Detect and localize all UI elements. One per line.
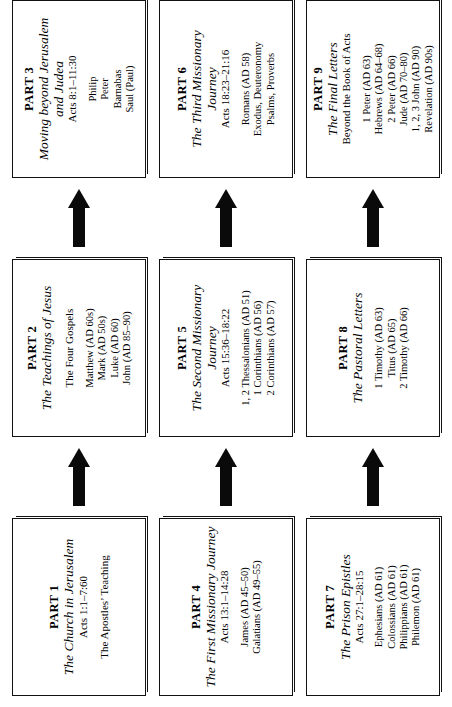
list-item: 1 Timothy (AD 63) xyxy=(373,307,385,388)
part-6-title: The Third Missionary Journey xyxy=(189,7,219,171)
part-1-subtitle: The Apostles’ Teaching xyxy=(98,555,111,658)
list-item: Jude (AD 70–80) xyxy=(398,44,410,135)
part-3-title: Moving beyond Jerusalem and Judea xyxy=(36,7,66,171)
part-4-box[interactable]: PART 4 The First Missionary Journey Acts… xyxy=(159,518,293,696)
part-9-box[interactable]: PART 9 The Final Letters Beyond the Book… xyxy=(306,0,440,178)
part-1-reference: Acts 1:1–7:60 xyxy=(77,576,90,638)
part-5-reference: Acts 15:36–18:22 xyxy=(219,309,232,388)
arrow-part-5-to-part-6 xyxy=(159,178,293,259)
part-9-title: The Final Letters xyxy=(325,42,340,136)
part-2-box[interactable]: PART 2 The Teachings of Jesus The Four G… xyxy=(12,259,146,437)
part-4-items: James (AD 45–50) Galatians (AD 49–55) xyxy=(239,560,264,653)
list-item: Romans (AD 58) xyxy=(240,42,252,137)
arrow-shaft xyxy=(367,208,379,248)
right-arrow-icon xyxy=(215,449,237,507)
list-item: Peter xyxy=(99,66,111,113)
arrow-part-8-to-part-9 xyxy=(306,178,440,259)
part-7-box[interactable]: PART 7 The Prison Epistles Acts 27:1–28:… xyxy=(306,518,440,696)
part-2-items: Matthew (AD 60s) Mark (AD 50s) Luke (AD … xyxy=(84,308,134,387)
part-8-items: 1 Timothy (AD 63) Titus (AD 65) 2 Timoth… xyxy=(373,307,410,388)
list-item: Colossians (AD 61) xyxy=(386,564,398,649)
right-arrow-icon xyxy=(362,449,384,507)
part-9-items: 1 Peter (AD 63) Hebrews (AD 64–68) 2 Pet… xyxy=(361,44,435,135)
right-arrow-icon xyxy=(215,190,237,248)
list-item: Revelation (AD 90s) xyxy=(423,44,435,135)
part-6-reference: Acts 18:23–21:16 xyxy=(219,50,232,129)
arrow-part-7-to-part-8 xyxy=(306,437,440,518)
list-item: 1 Peter (AD 63) xyxy=(361,44,373,135)
part-6-box[interactable]: PART 6 The Third Missionary Journey Acts… xyxy=(159,0,293,178)
arrow-head xyxy=(215,190,237,209)
list-item: Ephesians (AD 61) xyxy=(373,564,385,649)
part-5-label: PART 5 xyxy=(175,326,189,370)
part-1-title: The Church in Jerusalem xyxy=(61,539,76,675)
list-item: Hebrews (AD 64–68) xyxy=(373,44,385,135)
part-2-title: The Teachings of Jesus xyxy=(39,286,54,410)
part-9-label: PART 9 xyxy=(311,67,325,111)
part-8-title: The Pastoral Letters xyxy=(350,293,365,404)
list-item: Matthew (AD 60s) xyxy=(84,308,96,387)
list-item: Barnabas xyxy=(112,66,124,113)
part-2-subtitle: The Four Gospels xyxy=(63,309,76,388)
list-item: 2 Peter (AD 66) xyxy=(386,44,398,135)
arrow-head xyxy=(215,449,237,468)
part-7-items: Ephesians (AD 61) Colossians (AD 61) Phi… xyxy=(373,564,423,649)
part-7-title: The Prison Epistles xyxy=(338,554,353,660)
part-1-label: PART 1 xyxy=(47,585,61,629)
arrow-shaft xyxy=(73,208,85,248)
arrow-head xyxy=(68,190,90,209)
list-item: Philip xyxy=(87,66,99,113)
part-9-reference: Beyond the Book of Acts xyxy=(340,33,353,144)
arrow-head xyxy=(68,449,90,468)
list-item: Mark (AD 50s) xyxy=(96,308,108,387)
right-arrow-icon xyxy=(68,190,90,248)
part-4-title: The First Missionary Journey xyxy=(203,527,218,688)
part-4-label: PART 4 xyxy=(189,585,203,629)
part-4-reference: Acts 13:1–14:28 xyxy=(218,570,231,643)
list-item: 1, 2 Thessalonians (AD 51) xyxy=(240,290,252,406)
arrow-shaft xyxy=(220,467,232,507)
part-8-label: PART 8 xyxy=(336,326,350,370)
right-arrow-icon xyxy=(362,190,384,248)
list-item: 1 Corinthians (AD 56) xyxy=(252,290,264,406)
part-8-box[interactable]: PART 8 The Pastoral Letters 1 Timothy (A… xyxy=(306,259,440,437)
part-1-box[interactable]: PART 1 The Church in Jerusalem Acts 1:1–… xyxy=(12,518,146,696)
list-item: 2 Corinthians (AD 57) xyxy=(265,290,277,406)
arrow-part-2-to-part-3 xyxy=(12,178,146,259)
diagram-rotator: PART 1 The Church in Jerusalem Acts 1:1–… xyxy=(0,0,452,707)
arrow-part-4-to-part-5 xyxy=(159,437,293,518)
list-item: Philippians (AD 61) xyxy=(398,564,410,649)
list-item: 1, 2, 3 John (AD 90) xyxy=(410,44,422,135)
right-arrow-icon xyxy=(68,449,90,507)
flowchart: PART 1 The Church in Jerusalem Acts 1:1–… xyxy=(0,0,452,707)
arrow-head xyxy=(362,190,384,209)
part-5-title: The Second Missionary Journey xyxy=(189,266,219,430)
flowchart-row-1: PART 1 The Church in Jerusalem Acts 1:1–… xyxy=(8,0,150,707)
part-5-items: 1, 2 Thessalonians (AD 51) 1 Corinthians… xyxy=(240,290,277,406)
part-7-label: PART 7 xyxy=(323,585,337,629)
list-item: Exodus, Deuteronomy xyxy=(252,42,264,137)
list-item: James (AD 45–50) xyxy=(239,560,251,653)
part-6-items: Romans (AD 58) Exodus, Deuteronomy Psalm… xyxy=(240,42,277,137)
part-7-reference: Acts 27:1–28:15 xyxy=(353,570,366,643)
arrow-shaft xyxy=(220,208,232,248)
flowchart-row-2: PART 4 The First Missionary Journey Acts… xyxy=(155,0,297,707)
part-6-label: PART 6 xyxy=(175,67,189,111)
list-item: Psalms, Proverbs xyxy=(265,42,277,137)
part-3-reference: Acts 8:1–11:30 xyxy=(66,55,79,122)
list-item: Luke (AD 60) xyxy=(109,308,121,387)
part-5-box[interactable]: PART 5 The Second Missionary Journey Act… xyxy=(159,259,293,437)
part-3-box[interactable]: PART 3 Moving beyond Jerusalem and Judea… xyxy=(12,0,146,178)
flowchart-row-3: PART 7 The Prison Epistles Acts 27:1–28:… xyxy=(302,0,444,707)
arrow-head xyxy=(362,449,384,468)
list-item: Saul (Paul) xyxy=(124,66,136,113)
part-2-label: PART 2 xyxy=(25,326,39,370)
list-item: Philemon (AD 61) xyxy=(410,564,422,649)
list-item: Titus (AD 65) xyxy=(386,307,398,388)
list-item: 2 Timothy (AD 66) xyxy=(398,307,410,388)
part-3-items: Philip Peter Barnabas Saul (Paul) xyxy=(87,66,137,113)
arrow-shaft xyxy=(367,467,379,507)
list-item: John (AD 85–90) xyxy=(121,308,133,387)
arrow-part-1-to-part-2 xyxy=(12,437,146,518)
list-item: Galatians (AD 49–55) xyxy=(251,560,263,653)
